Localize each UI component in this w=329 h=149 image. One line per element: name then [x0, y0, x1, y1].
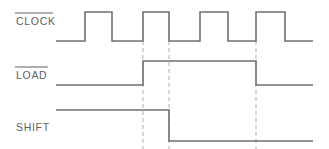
signal-clock: CLOCK — [15, 12, 313, 41]
signal-label-load: LOAD — [16, 69, 47, 81]
timing-diagram-canvas: CLOCK LOAD SHIFT — [0, 0, 329, 149]
signal-label-clock: CLOCK — [16, 15, 56, 27]
waveform-shift — [56, 110, 313, 141]
signal-shift: SHIFT — [16, 110, 313, 141]
signal-load: LOAD — [15, 61, 313, 85]
waveform-load — [56, 61, 313, 85]
waveform-clock — [56, 12, 313, 41]
timing-diagram: CLOCK LOAD SHIFT — [0, 0, 329, 149]
signal-label-shift: SHIFT — [16, 121, 50, 133]
marker-lines-group — [143, 41, 256, 149]
